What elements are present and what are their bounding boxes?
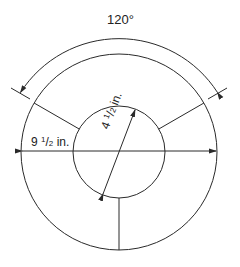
angle-value: 120°: [107, 12, 134, 27]
ring-diagram: [0, 0, 240, 267]
angle-dimension-arc: [21, 39, 218, 93]
inner-diameter-den: 2: [108, 107, 118, 114]
outer-diameter-unit: in.: [57, 135, 70, 149]
angle-label: 120°: [107, 12, 134, 27]
outer-diameter-den: 2: [49, 139, 53, 148]
outer-diameter-num: 1: [41, 135, 45, 144]
divider-line-left: [34, 103, 79, 129]
extension-line-right: [208, 88, 227, 99]
outer-diameter-label: 9 1/2 in.: [31, 135, 69, 149]
inner-diameter-num: 1: [102, 112, 112, 119]
outer-diameter-whole: 9: [31, 135, 38, 149]
divider-line-right: [159, 103, 204, 129]
extension-line-left: [11, 88, 30, 99]
